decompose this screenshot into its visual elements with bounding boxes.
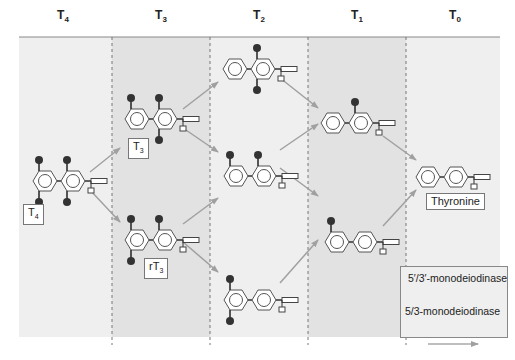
label-thyronine: Thyronine (426, 193, 485, 210)
deiodination-diagram: T4 T3 T2 T1 T0 (0, 0, 515, 360)
column-bg-t1 (308, 37, 406, 337)
label-rt3: rT3 (144, 258, 168, 279)
label-t3: T3 (128, 138, 149, 159)
legend-label-5prime-3prime: 5′/3′-monodeiodinase (408, 272, 507, 284)
legend: 5′/3′-monodeiodinase 5/3-monodeiodinase (400, 266, 508, 338)
label-t4: T4 (23, 204, 44, 225)
legend-label-5-3: 5/3-monodeiodinase (405, 305, 500, 317)
column-bg-t3 (112, 37, 210, 337)
